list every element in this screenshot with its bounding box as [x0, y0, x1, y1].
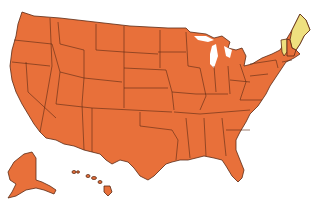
state-hawaii	[72, 171, 112, 197]
state-maine	[290, 14, 310, 50]
state-alaska	[8, 152, 56, 198]
us-map	[0, 0, 324, 211]
